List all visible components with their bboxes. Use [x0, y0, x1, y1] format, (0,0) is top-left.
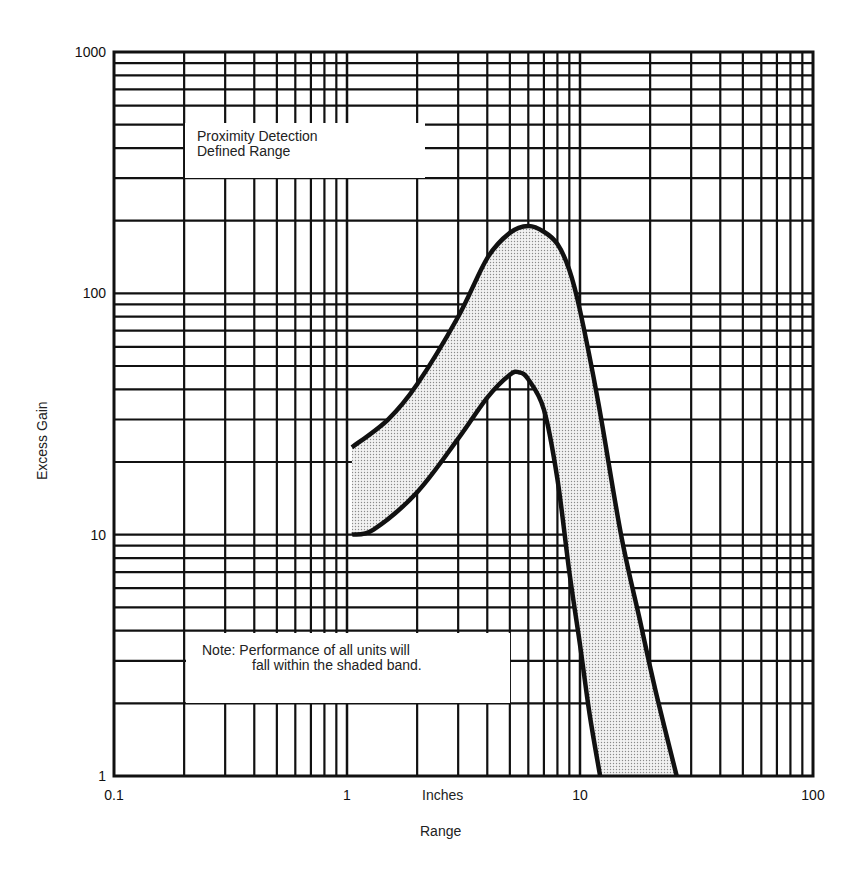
legend-line-2: Defined Range — [197, 144, 425, 159]
chart: 0.1110100 1101001000 Inches Range Excess… — [0, 0, 860, 875]
legend-line-1: Proximity Detection — [197, 129, 425, 144]
x-tick-label: 10 — [572, 787, 588, 803]
x-tick-label: 100 — [801, 787, 825, 803]
x-axis-label: Range — [420, 823, 461, 839]
y-ticks: 1101001000 — [75, 44, 106, 784]
y-axis-label: Excess Gain — [34, 401, 50, 480]
note-line-1: Note: Performance of all units will — [202, 643, 510, 658]
x-ticks: 0.1110100 — [104, 787, 825, 803]
x-tick-label: 0.1 — [104, 787, 124, 803]
note-box: Note: Performance of all units will fall… — [186, 633, 510, 703]
y-tick-label: 1 — [98, 768, 106, 784]
legend-box: Proximity Detection Defined Range — [185, 123, 425, 178]
y-tick-label: 100 — [83, 285, 107, 301]
note-line-2: fall within the shaded band. — [202, 658, 510, 673]
y-tick-label: 10 — [90, 527, 106, 543]
y-tick-label: 1000 — [75, 44, 106, 60]
x-tick-label: 1 — [343, 787, 351, 803]
x-unit-label: Inches — [422, 787, 463, 803]
